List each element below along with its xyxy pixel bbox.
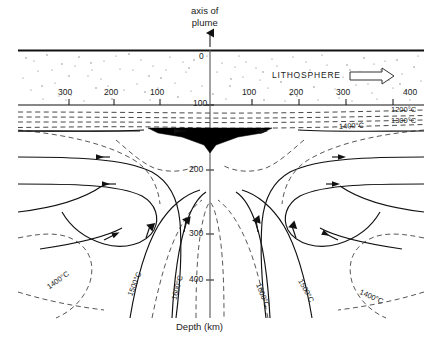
tick-left-200: 200 — [104, 88, 118, 97]
axis-label-line1: axis of — [191, 6, 218, 16]
depth-0-label: 0 — [199, 52, 204, 61]
isotherm-label-1400-top: 1400°C — [339, 122, 364, 131]
tick-right-400: 400 — [403, 88, 417, 97]
diagram-canvas — [0, 0, 442, 344]
lithosphere-label: LITHOSPHERE — [272, 71, 341, 80]
tick-left-100: 100 — [150, 88, 164, 97]
axis-of-plume-label: axis of plume — [191, 6, 218, 27]
plume-head-shape — [148, 128, 272, 153]
tick-right-100: 100 — [242, 88, 256, 97]
tick-right-300: 300 — [336, 88, 350, 97]
tick-left-300: 300 — [58, 88, 72, 97]
depth-100-label: 100 — [193, 99, 207, 108]
depth-400-label: 400 — [189, 275, 203, 284]
tick-right-200: 200 — [289, 88, 303, 97]
depth-300-label: 300 — [189, 229, 203, 238]
isotherm-label-1200: 1200°C — [391, 106, 416, 114]
plume-diagram: axis of plume 0 100 300 200 100 100 200 … — [0, 0, 442, 344]
depth-200-label: 200 — [189, 165, 203, 174]
axis-label-line2: plume — [191, 18, 218, 28]
lithosphere-motion-arrow — [350, 68, 394, 84]
isotherm-label-1300: 1300°C — [391, 117, 416, 125]
depth-axis-label: Depth (km) — [176, 322, 223, 332]
